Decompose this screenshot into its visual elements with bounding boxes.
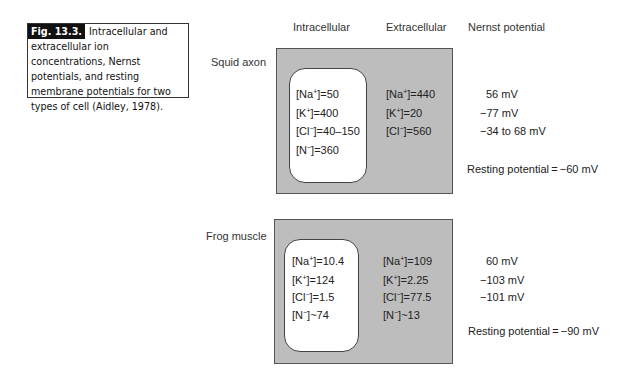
frog-extra-na: [Na+]=109: [383, 255, 432, 267]
cell-label-squid-axon: Squid axon: [211, 56, 266, 68]
frog-intra-k: [K+]=124: [292, 274, 334, 286]
frog-intra-n: [N−]~74: [292, 309, 329, 321]
frog-extra-k: [K+]=2.25: [383, 274, 428, 286]
frog-extra-cl: [Cl−]=77.5: [383, 291, 431, 303]
frog-intra-na: [Na+]=10.4: [292, 255, 344, 267]
squid-intra-k: [K+]=400: [296, 107, 338, 119]
frog-intra-cl: [Cl−]=1.5: [292, 291, 334, 303]
frog-resting-potential: Resting potential = −90 mV: [468, 325, 599, 337]
frog-extra-n: [N−]~13: [383, 309, 420, 321]
figure-caption: Fig. 13.3.Intracellular and extracellula…: [27, 23, 189, 98]
squid-nernst-cl: −34 to 68 mV: [480, 125, 546, 137]
squid-intra-cl: [Cl−]=40–150: [296, 125, 360, 137]
squid-intra-n: [N−]=360: [296, 144, 339, 156]
squid-extra-na: [Na+]=440: [386, 88, 435, 100]
squid-resting-potential: Resting potential = −60 mV: [467, 163, 598, 175]
squid-nernst-na: 56 mV: [486, 88, 518, 100]
caption-text: Intracellular and extracellular ion conc…: [31, 26, 171, 112]
squid-intra-na: [Na+]=50: [296, 88, 339, 100]
figure-label: Fig. 13.3.: [28, 24, 85, 39]
squid-nernst-k: −77 mV: [480, 107, 518, 119]
frog-nernst-cl: −101 mV: [480, 291, 524, 303]
column-header-nernst: Nernst potential: [468, 21, 545, 33]
squid-extra-cl: [Cl−]=560: [386, 125, 431, 137]
cell-label-frog-muscle: Frog muscle: [206, 230, 267, 242]
column-header-extracellular: Extracellular: [386, 21, 447, 33]
frog-nernst-k: −103 mV: [480, 274, 524, 286]
squid-extra-k: [K+]=20: [386, 107, 422, 119]
column-header-intracellular: Intracellular: [293, 21, 350, 33]
frog-nernst-na: 60 mV: [486, 255, 518, 267]
